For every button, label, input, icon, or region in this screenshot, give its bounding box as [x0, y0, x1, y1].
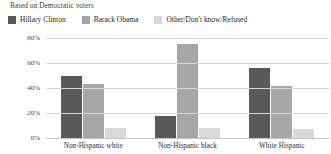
legend-entry-other: Other/Don't know/Refused [154, 15, 247, 24]
y-axis-tick-label: 60% [27, 59, 40, 67]
y-axis-tick-label: 20% [27, 109, 40, 117]
x-axis-category-label: White Hispanic [235, 142, 329, 150]
x-axis-labels: Non-Hispanic whiteNon-Hispanic blackWhit… [46, 142, 329, 150]
plot-canvas [46, 38, 329, 138]
legend-label-other: Other/Don't know/Refused [166, 15, 247, 24]
legend-entry-hillary-clinton: Hillary Clinton [8, 15, 66, 24]
legend-label-barack-obama: Barack Obama [94, 15, 139, 24]
gridline [46, 88, 329, 89]
bar[interactable] [177, 44, 198, 138]
axis-baseline [46, 138, 329, 139]
y-axis-tick-label: 40% [27, 84, 40, 92]
legend-swatch-hillary-clinton [8, 16, 16, 24]
legend-swatch-other [154, 16, 162, 24]
bar[interactable] [199, 128, 220, 138]
bar[interactable] [271, 86, 292, 139]
bar[interactable] [83, 84, 104, 138]
y-axis-tick-label: 80% [27, 34, 40, 42]
chart-container: Based on Democratic voters Hillary Clint… [0, 0, 331, 154]
bar[interactable] [249, 68, 270, 138]
chart-legend: Hillary Clinton Barack Obama Other/Don't… [8, 15, 263, 24]
bar[interactable] [105, 128, 126, 138]
chart-subtitle: Based on Democratic voters [10, 2, 94, 10]
bar[interactable] [61, 76, 82, 139]
gridline [46, 63, 329, 64]
bar[interactable] [155, 116, 176, 139]
gridline [46, 113, 329, 114]
legend-swatch-barack-obama [82, 16, 90, 24]
y-axis: 0%20%40%60%80% [0, 38, 46, 138]
gridline [46, 38, 329, 39]
x-axis-category-label: Non-Hispanic black [140, 142, 234, 150]
legend-entry-barack-obama: Barack Obama [82, 15, 139, 24]
x-axis-category-label: Non-Hispanic white [46, 142, 140, 150]
legend-label-hillary-clinton: Hillary Clinton [20, 15, 66, 24]
bar[interactable] [293, 129, 314, 138]
y-axis-tick-label: 0% [31, 134, 40, 142]
plot-area: 0%20%40%60%80% Non-Hispanic whiteNon-His… [0, 38, 331, 154]
